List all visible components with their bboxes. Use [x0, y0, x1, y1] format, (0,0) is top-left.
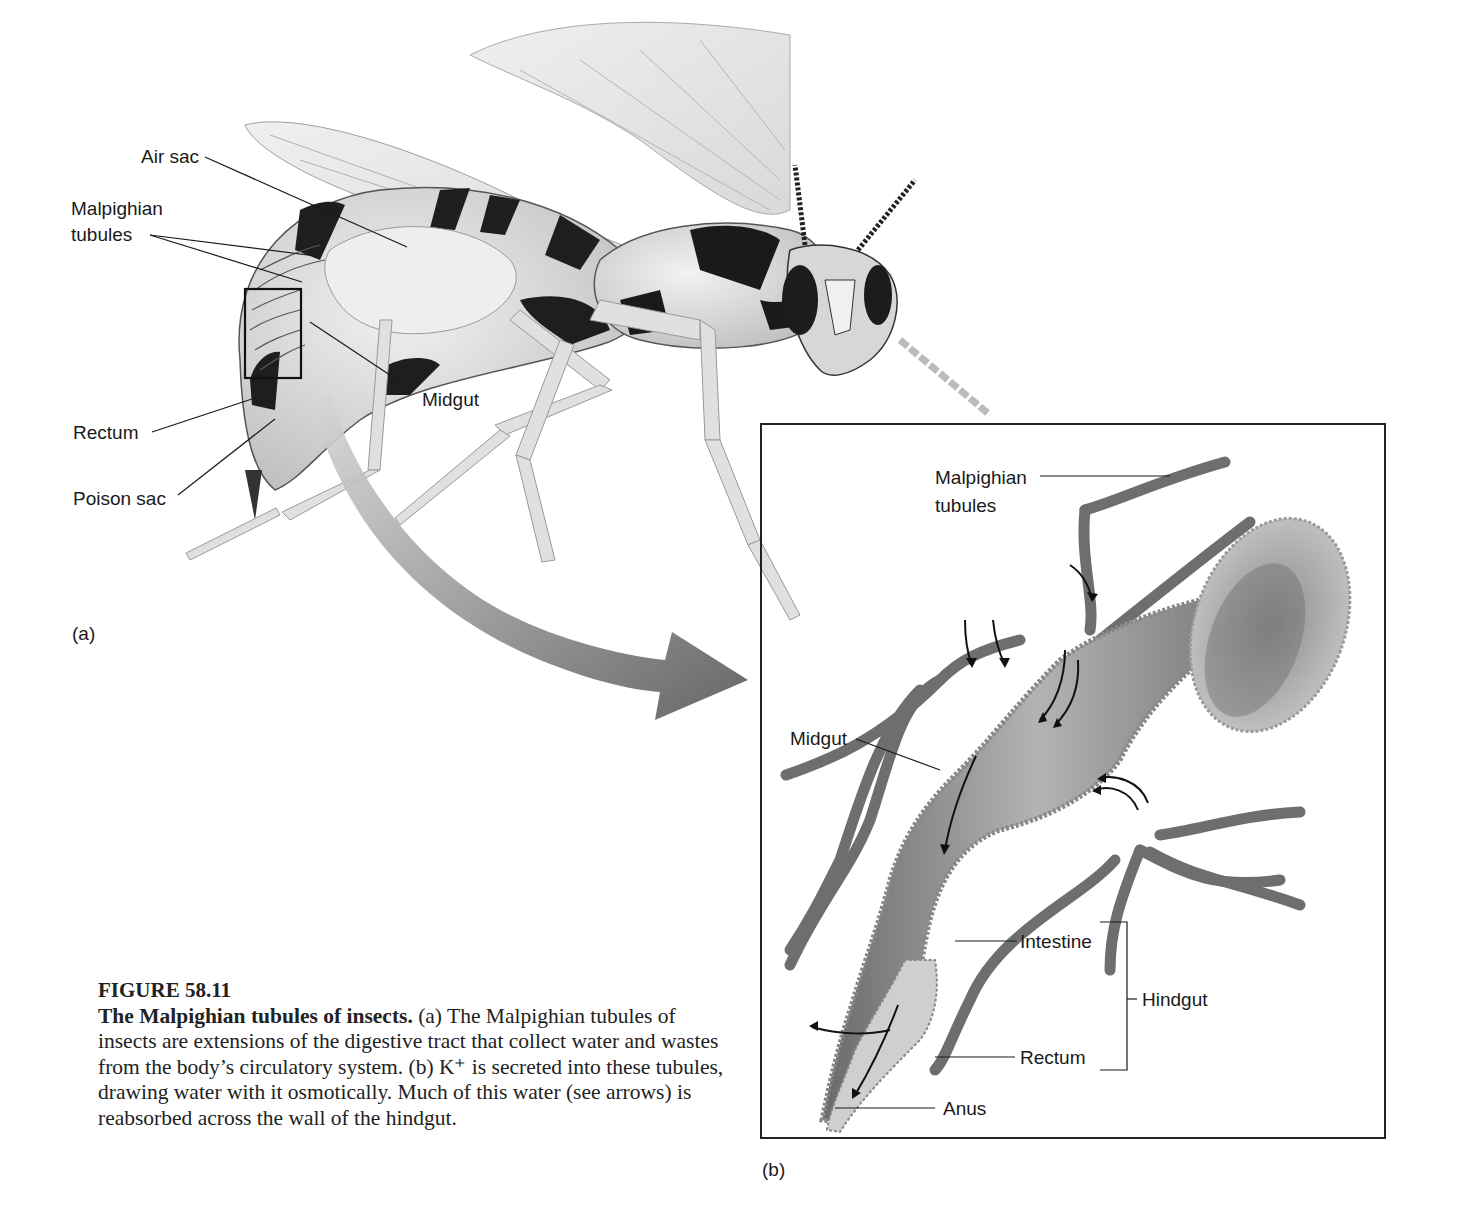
label-malpighian-b-line1: Malpighian [935, 466, 1027, 489]
figure-caption: FIGURE 58.11 The Malpighian tubules of i… [98, 978, 738, 1131]
label-midgut-b: Midgut [790, 727, 847, 750]
caption-a-marker: (a) [418, 1004, 442, 1028]
figure-title: The Malpighian tubules of insects. [98, 1004, 413, 1028]
label-intestine: Intestine [1020, 930, 1092, 953]
caption-b-marker: (b) [409, 1055, 434, 1079]
figure-number: FIGURE 58.11 [98, 978, 738, 1004]
panel-b-tag: (b) [762, 1158, 785, 1181]
label-hindgut: Hindgut [1142, 988, 1208, 1011]
label-anus: Anus [943, 1097, 986, 1120]
label-rectum-b: Rectum [1020, 1046, 1085, 1069]
label-malpighian-b-line2: tubules [935, 494, 996, 517]
